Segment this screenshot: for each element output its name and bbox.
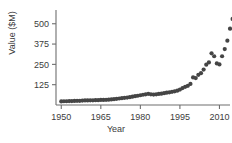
- data-point: [188, 82, 192, 86]
- data-point: [223, 47, 227, 51]
- scatter-chart: 19501965198019952010125250375500 Value (…: [0, 0, 232, 143]
- data-point: [228, 27, 232, 31]
- y-axis-label: Value ($M): [7, 0, 17, 69]
- data-point: [199, 71, 203, 75]
- x-tick-label: 1980: [130, 112, 150, 122]
- y-tick-label: 375: [34, 39, 49, 49]
- y-tick-label: 250: [34, 60, 49, 70]
- x-axis-label: Year: [0, 124, 232, 134]
- data-point: [225, 39, 229, 43]
- data-point: [202, 67, 206, 71]
- y-tick-label: 500: [34, 19, 49, 29]
- x-tick-label: 1965: [91, 112, 111, 122]
- data-point: [231, 17, 232, 21]
- data-point: [194, 76, 198, 80]
- x-tick-label: 1950: [51, 112, 71, 122]
- x-tick-label: 2010: [209, 112, 229, 122]
- data-points-group: [59, 17, 232, 104]
- x-tick-label: 1995: [170, 112, 190, 122]
- data-point: [217, 62, 221, 66]
- chart-canvas: 19501965198019952010125250375500: [0, 0, 232, 143]
- data-point: [212, 54, 216, 58]
- y-tick-label: 125: [34, 80, 49, 90]
- data-point: [220, 54, 224, 58]
- data-point: [207, 60, 211, 64]
